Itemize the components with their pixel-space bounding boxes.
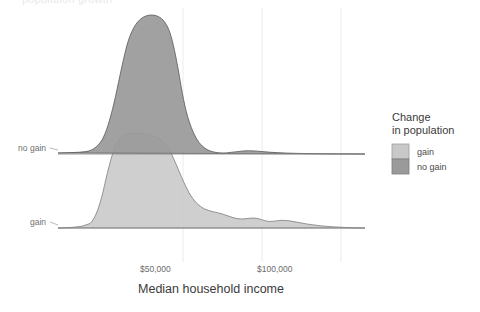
ridge-no-gain	[58, 15, 365, 154]
y-tick-gain	[50, 222, 58, 225]
x-axis-title: Median household income	[138, 282, 284, 296]
clipped-top-title: population growth	[22, 0, 112, 5]
legend-swatch-gain[interactable]	[392, 144, 409, 159]
legend-title-line1: Change	[392, 111, 431, 123]
y-axis-labels: no gain gain	[18, 143, 58, 227]
y-tick-no-gain	[50, 148, 58, 150]
x-tick-label-50000: $50,000	[140, 264, 171, 274]
legend-label-gain: gain	[417, 147, 434, 157]
legend-title-line2: in population	[392, 124, 454, 136]
x-tick-label-100000: $100,000	[257, 264, 293, 274]
y-category-label-gain: gain	[30, 217, 46, 227]
legend-swatch-no-gain[interactable]	[392, 159, 409, 174]
ridgeline-chart-figure: population growth no gain gain	[0, 0, 480, 312]
chart-canvas: no gain gain $50,000 $100,000 Median hou…	[0, 0, 480, 312]
legend: Change in population gain no gain	[392, 111, 454, 174]
x-axis-tick-labels: $50,000 $100,000	[140, 264, 293, 274]
legend-label-no-gain: no gain	[417, 162, 447, 172]
y-category-label-no-gain: no gain	[18, 143, 46, 153]
ridge-no-gain-area	[58, 15, 365, 154]
